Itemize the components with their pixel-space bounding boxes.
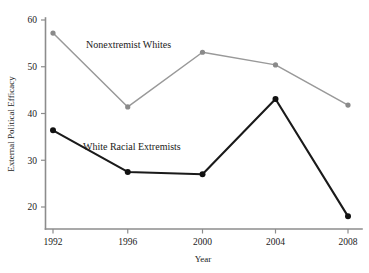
- data-point: [345, 102, 350, 107]
- data-point: [273, 96, 279, 102]
- x-tick-label-2000: 2000: [193, 237, 212, 247]
- line-chart: 60 50 40 30 20 1992 1996 2000 2004 2008 …: [0, 0, 369, 273]
- y-tick-label-30: 30: [28, 156, 38, 166]
- data-point: [125, 169, 131, 175]
- y-tick-label-40: 40: [28, 109, 38, 119]
- series-label-white-racial-extremists: White Racial Extremists: [83, 141, 181, 152]
- x-axis-title: Year: [195, 254, 212, 264]
- chart-container: 60 50 40 30 20 1992 1996 2000 2004 2008 …: [0, 0, 369, 273]
- data-point: [200, 171, 206, 177]
- x-tick-label-2008: 2008: [339, 237, 358, 247]
- data-point: [345, 213, 351, 219]
- data-point: [273, 62, 278, 67]
- series-markers-white-racial-extremists: [50, 96, 351, 219]
- data-point: [50, 30, 55, 35]
- y-tick-label-60: 60: [28, 15, 38, 25]
- data-point: [125, 104, 130, 109]
- x-tick-label-1996: 1996: [118, 237, 137, 247]
- series-label-nonextremist-whites: Nonextremist Whites: [86, 39, 171, 50]
- x-tick-label-1992: 1992: [44, 237, 63, 247]
- x-tick-label-2004: 2004: [266, 237, 285, 247]
- series-line-white-racial-extremists: [53, 99, 348, 216]
- x-axis-tick-labels: 1992 1996 2000 2004 2008: [44, 237, 358, 247]
- y-axis-tick-labels: 60 50 40 30 20: [28, 15, 38, 212]
- y-axis-title: External Political Efficacy: [6, 76, 16, 172]
- y-tick-label-20: 20: [28, 202, 38, 212]
- y-tick-label-50: 50: [28, 62, 38, 72]
- data-point: [200, 50, 205, 55]
- data-point: [50, 127, 56, 133]
